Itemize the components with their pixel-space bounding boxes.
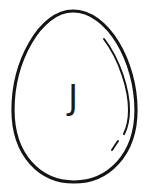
egg-highlight-dash <box>112 141 118 150</box>
egg-illustration: J <box>0 0 146 184</box>
egg-letter: J <box>0 80 146 116</box>
